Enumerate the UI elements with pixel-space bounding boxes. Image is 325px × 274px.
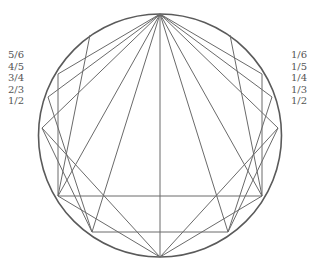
circle-chord-diagram — [0, 0, 325, 274]
right-side-chords — [228, 35, 278, 232]
left-side-chords — [42, 35, 92, 232]
